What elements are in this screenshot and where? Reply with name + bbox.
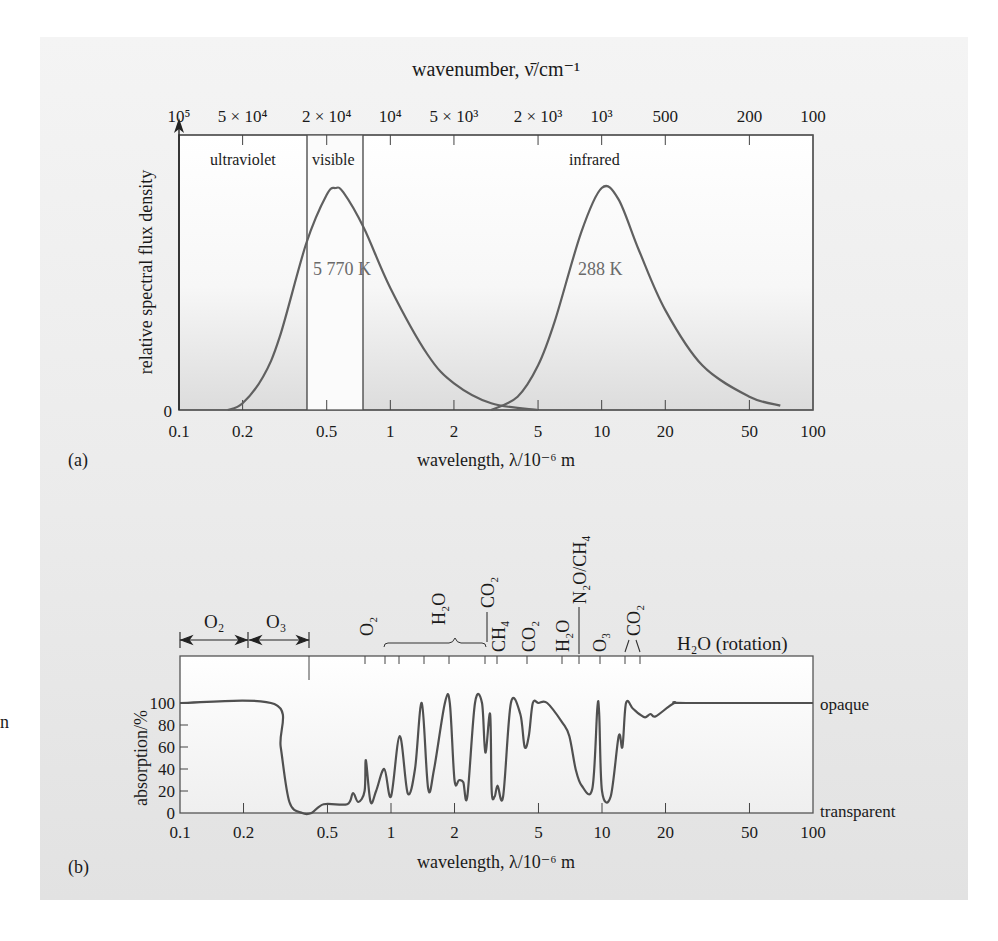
x-tick-label: 50 <box>741 823 758 842</box>
panel-a-label: (a) <box>68 450 88 471</box>
top-tick-label: 2 × 10⁴ <box>302 107 352 126</box>
panel-b-absorption-chart: O₂ O₃ O₂ H₂O CO₂ CH₄ CO₂ H₂O N₂O/CH₄ O₃ … <box>68 535 896 878</box>
y-axis-tick-labels: 020406080100 <box>150 694 176 823</box>
top-tick-label: 5 × 10⁴ <box>218 107 268 126</box>
y-tick-label: 80 <box>158 716 175 735</box>
x-tick-label: 0.2 <box>233 823 254 842</box>
x-tick-label: 5 <box>534 422 543 441</box>
y-tick-label: 60 <box>158 738 175 757</box>
label-5770K: 5 770 K <box>313 259 371 279</box>
x-tick-label: 10 <box>593 422 610 441</box>
absorber-label-h2o-rotation: H₂O (rotation) <box>677 633 788 655</box>
x-tick-label: 2 <box>450 823 459 842</box>
x-tick-label: 0.5 <box>317 823 338 842</box>
panel-b-label: (b) <box>68 857 89 878</box>
x-tick-label: 5 <box>534 823 543 842</box>
x-tick-label: 20 <box>657 422 674 441</box>
y-tick-label: 40 <box>158 760 175 779</box>
top-tick-label: 10⁴ <box>379 107 402 126</box>
top-axis-tick-labels: 10⁵5 × 10⁴2 × 10⁴10⁴5 × 10³2 × 10³10³500… <box>168 107 826 126</box>
y-tick-label: 100 <box>150 694 176 713</box>
top-tick-label: 10³ <box>591 107 613 126</box>
label-opaque: opaque <box>820 695 869 714</box>
x-tick-label: 1 <box>387 823 396 842</box>
label-288K: 288 K <box>578 259 623 279</box>
panel-a-spectral-flux-chart: wavenumber, ν̄/cm⁻¹ 10⁵5 × 10⁴2 × 10⁴10⁴… <box>68 58 826 471</box>
y-axis-title: relative spectral flux density <box>136 170 156 374</box>
x-axis-tick-labels: 0.10.20.5125102050100 <box>168 422 825 441</box>
y-axis-title-b: absorption/% <box>131 710 151 806</box>
absorber-label-h2o: H₂O <box>429 593 449 625</box>
x-axis-title: wavelength, λ/10⁻⁶ m <box>417 450 575 470</box>
x-tick-label: 100 <box>800 422 826 441</box>
top-tick-label: 500 <box>653 107 679 126</box>
absorber-label-h2o-6_3: H₂O <box>553 620 573 652</box>
top-tick-label: 2 × 10³ <box>514 107 563 126</box>
figure-canvas: wavenumber, ν̄/cm⁻¹ 10⁵5 × 10⁴2 × 10⁴10⁴… <box>0 0 998 941</box>
x-tick-label: 50 <box>741 422 758 441</box>
x-axis-title-b: wavelength, λ/10⁻⁶ m <box>417 852 575 872</box>
y-tick-label: 0 <box>167 804 176 823</box>
top-tick-label: 200 <box>737 107 763 126</box>
region-label-ultraviolet: ultraviolet <box>210 151 276 168</box>
absorber-label-n2o-ch4: N₂O/CH₄ <box>570 535 590 604</box>
y-tick-0: 0 <box>164 402 173 421</box>
x-tick-label: 0.1 <box>169 823 190 842</box>
absorber-label-co2-4_3: CO₂ <box>519 621 539 652</box>
co2-15um-leader-right <box>636 640 640 652</box>
co2-15um-leader-left <box>625 640 629 652</box>
plot-a-frame <box>179 135 813 410</box>
absorber-label-co2-2_7: CO₂ <box>478 577 498 608</box>
o2-range-arrow <box>180 632 248 648</box>
x-tick-label: 0.5 <box>316 422 337 441</box>
x-axis-tick-labels-b: 0.10.20.5125102050100 <box>169 823 825 842</box>
absorber-label-ch4: CH₄ <box>489 621 509 652</box>
absorber-label-o2-uv: O₂ <box>204 611 224 632</box>
o3-range-arrow <box>249 632 309 648</box>
region-label-visible: visible <box>312 151 355 168</box>
x-tick-label: 10 <box>594 823 611 842</box>
absorber-label-o3: O₃ <box>590 633 610 652</box>
region-label-infrared: infrared <box>569 151 620 168</box>
h2o-brace <box>384 638 486 647</box>
top-axis-title: wavenumber, ν̄/cm⁻¹ <box>412 58 580 80</box>
x-tick-label: 1 <box>386 422 395 441</box>
x-tick-label: 0.1 <box>168 422 189 441</box>
absorber-label-o3-uv: O₃ <box>266 611 286 632</box>
x-tick-label: 100 <box>800 823 826 842</box>
top-tick-label: 100 <box>800 107 826 126</box>
x-tick-label: 20 <box>657 823 674 842</box>
label-transparent: transparent <box>820 802 896 821</box>
top-tick-label: 5 × 10³ <box>430 107 479 126</box>
y-tick-label: 20 <box>158 782 175 801</box>
x-tick-label: 2 <box>450 422 459 441</box>
absorber-label-o2: O₂ <box>357 617 377 636</box>
absorber-label-co2-15: CO₂ <box>624 605 644 636</box>
x-tick-label: 0.2 <box>232 422 253 441</box>
